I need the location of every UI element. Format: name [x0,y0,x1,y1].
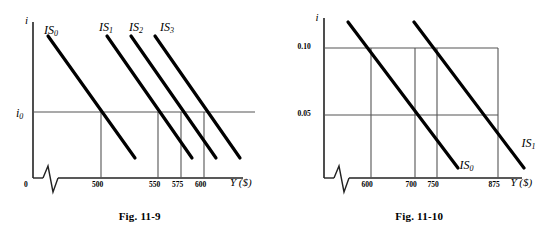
figure-11-10-panel: i 0.10 0.05 600 700 750 875 Y ($) IS0 IS… [280,0,559,228]
figure-11-10-chart [280,0,559,200]
is2-curve [131,36,216,158]
xtick-575: 575 [172,180,183,189]
origin-label: 0 [24,180,28,189]
ytick-i0: i0 [16,103,23,121]
is2-curve-label: IS2 [129,17,143,35]
xtick-750: 750 [428,180,439,189]
ytick-i0-sub: 0 [19,112,23,121]
figure-11-9-caption: Fig. 11-9 [0,210,280,222]
x-axis-label: Y ($) [230,176,252,188]
is2-label-sub: 2 [139,26,143,35]
figure-11-9-panel: i i0 0 500 550 575 600 Y ($) IS0 IS1 IS2… [0,0,280,228]
x-axis-break-icon [334,166,349,192]
xtick-550: 550 [149,180,160,189]
figure-pair-container: i i0 0 500 550 575 600 Y ($) IS0 IS1 IS2… [0,0,559,228]
is0-curve-label: IS0 [44,20,58,38]
is0-label-base: IS [460,158,470,172]
is0-curve [348,22,458,168]
is0-label-sub: 0 [54,29,58,38]
is1-label-sub: 1 [109,26,113,35]
y-axis-label: i [316,11,319,23]
is0-label-base: IS [44,23,54,37]
xtick-500: 500 [92,180,103,189]
is3-label-sub: 3 [170,26,174,35]
xtick-700: 700 [406,180,417,189]
is1-label-base: IS [99,20,109,34]
x-axis-label: Y ($) [511,176,533,188]
is0-curve [48,36,135,158]
is1-curve [107,36,192,158]
is3-curve-label: IS3 [160,17,174,35]
is0-curve-label: IS0 [460,155,474,173]
is3-curve [155,36,240,158]
xtick-600: 600 [195,180,206,189]
ytick-0-10: 0.10 [298,42,311,51]
figure-11-10-caption: Fig. 11-10 [280,210,559,222]
is0-label-sub: 0 [470,164,474,173]
xtick-875: 875 [489,180,500,189]
is1-curve-label: IS1 [522,133,536,151]
is1-label-base: IS [522,136,532,150]
x-axis-break-icon [43,166,58,192]
is1-curve-label: IS1 [99,17,113,35]
is2-label-base: IS [129,20,139,34]
ytick-0-05: 0.05 [298,109,311,118]
is1-label-sub: 1 [532,142,536,151]
is3-label-base: IS [160,20,170,34]
xtick-600: 600 [362,180,373,189]
y-axis-label: i [25,14,28,26]
is1-curve [414,22,524,168]
